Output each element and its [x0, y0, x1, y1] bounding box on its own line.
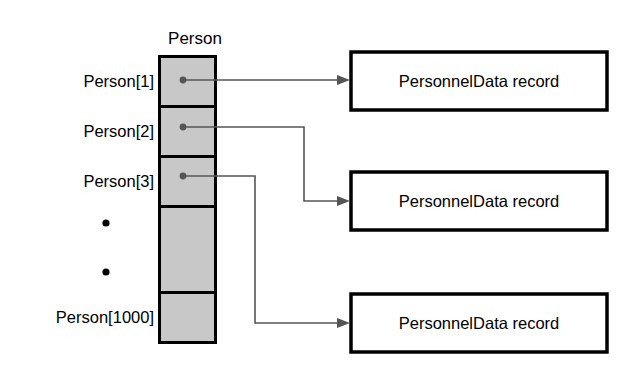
array-cell-elided[interactable] [160, 207, 216, 293]
pointer-arrowhead-3 [337, 318, 350, 328]
array-cell-label-1: Person[1] [83, 72, 154, 90]
pointer-arrowhead-1 [337, 75, 350, 85]
array-cell-3[interactable] [160, 157, 216, 207]
diagram-canvas: Person Person[1] Person[2] Person[3] Per… [0, 0, 639, 376]
record-box-group-2: PersonnelData record [351, 172, 607, 230]
array-column [160, 57, 216, 343]
ellipsis-dot-lower [102, 268, 109, 275]
array-cell-label-2: Person[2] [83, 122, 154, 140]
array-cell-1000[interactable] [160, 293, 216, 343]
pointer-arrowhead-2 [337, 196, 350, 206]
array-cell-label-3: Person[3] [83, 172, 154, 190]
array-cell-2[interactable] [160, 107, 216, 157]
array-cell-1[interactable] [160, 57, 216, 107]
array-title: Person [168, 29, 222, 48]
record-box-label-1: PersonnelData record [399, 72, 560, 90]
pointer-array-diagram: Person Person[1] Person[2] Person[3] Per… [0, 0, 639, 376]
record-box-group-1: PersonnelData record [351, 52, 607, 110]
record-box-group-3: PersonnelData record [351, 294, 607, 352]
record-box-label-3: PersonnelData record [399, 314, 560, 332]
array-cell-label-1000: Person[1000] [56, 308, 154, 326]
ellipsis-dot-upper [102, 219, 109, 226]
record-box-label-2: PersonnelData record [399, 192, 560, 210]
